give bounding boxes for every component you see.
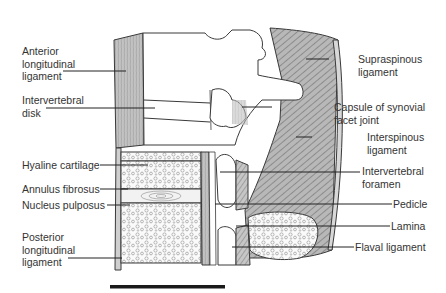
label-pedicle: Pedicle: [393, 198, 427, 211]
label-intervertebral-disk: Intervertebral disk: [22, 94, 84, 119]
label-intervertebral-foramen: Intervertebral foramen: [362, 165, 424, 190]
scale-bar: [110, 285, 225, 289]
label-flaval-ligament: Flaval ligament: [355, 241, 426, 254]
label-interspinous-ligament: Interspinous ligament: [367, 131, 424, 156]
label-posterior-longitudinal-ligament: Posterior longitudinal ligament: [22, 231, 75, 269]
lamina-shape: [248, 212, 318, 260]
posterior-longitudinal-ligament-shape: [201, 152, 210, 265]
lower-vertebral-body: [121, 203, 201, 263]
label-capsule-synovial-facet-joint: Capsule of synovial facet joint: [334, 101, 425, 126]
label-lamina: Lamina: [391, 220, 425, 233]
anterior-longitudinal-ligament-shape: [114, 33, 144, 148]
label-annulus-fibrosus: Annulus fibrosus: [22, 183, 100, 196]
label-nucleus-pulposus: Nucleus pulposus: [22, 199, 105, 212]
hyaline-cartilage-shape: [121, 152, 201, 161]
label-anterior-longitudinal-ligament: Anterior longitudinal ligament: [22, 45, 75, 83]
intervertebral-foramen-shape: [216, 154, 236, 207]
label-hyaline-cartilage: Hyaline cartilage: [22, 159, 100, 172]
label-supraspinous-ligament: Supraspinous ligament: [358, 53, 422, 78]
